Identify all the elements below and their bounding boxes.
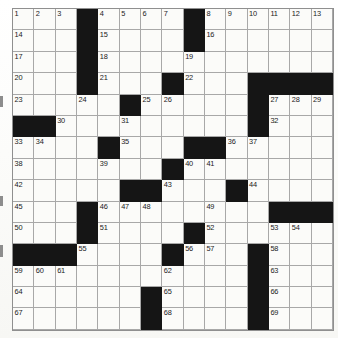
grid-cell[interactable] [226, 287, 247, 308]
grid-cell[interactable]: 37 [248, 137, 269, 158]
grid-cell[interactable] [77, 137, 98, 158]
grid-cell[interactable]: 54 [290, 223, 311, 244]
grid-cell[interactable]: 67 [13, 308, 34, 329]
grid-cell[interactable]: 6 [141, 9, 162, 30]
grid-cell[interactable] [184, 180, 205, 201]
grid-cell[interactable] [312, 287, 333, 308]
grid-cell[interactable]: 1 [13, 9, 34, 30]
grid-cell[interactable] [56, 137, 77, 158]
grid-cell[interactable] [269, 52, 290, 73]
grid-cell[interactable] [205, 266, 226, 287]
grid-cell[interactable]: 47 [120, 202, 141, 223]
grid-cell[interactable] [312, 244, 333, 265]
grid-cell[interactable] [162, 52, 183, 73]
grid-cell[interactable] [34, 52, 55, 73]
grid-cell[interactable]: 2 [34, 9, 55, 30]
grid-cell[interactable] [184, 266, 205, 287]
grid-cell[interactable] [312, 180, 333, 201]
grid-cell[interactable] [98, 244, 119, 265]
grid-cell[interactable] [226, 73, 247, 94]
grid-cell[interactable] [120, 73, 141, 94]
grid-cell[interactable] [98, 266, 119, 287]
grid-cell[interactable] [141, 244, 162, 265]
grid-cell[interactable] [312, 137, 333, 158]
grid-cell[interactable] [98, 287, 119, 308]
grid-cell[interactable] [162, 202, 183, 223]
grid-cell[interactable] [312, 159, 333, 180]
grid-cell[interactable]: 9 [226, 9, 247, 30]
grid-cell[interactable] [269, 30, 290, 51]
grid-cell[interactable] [226, 95, 247, 116]
grid-cell[interactable] [56, 180, 77, 201]
grid-cell[interactable]: 13 [312, 9, 333, 30]
grid-cell[interactable] [56, 95, 77, 116]
grid-cell[interactable]: 33 [13, 137, 34, 158]
grid-cell[interactable]: 49 [205, 202, 226, 223]
grid-cell[interactable] [34, 30, 55, 51]
grid-cell[interactable]: 23 [13, 95, 34, 116]
grid-cell[interactable]: 59 [13, 266, 34, 287]
grid-cell[interactable] [312, 30, 333, 51]
grid-cell[interactable]: 48 [141, 202, 162, 223]
grid-cell[interactable] [56, 73, 77, 94]
grid-cell[interactable]: 65 [162, 287, 183, 308]
grid-cell[interactable] [290, 244, 311, 265]
grid-cell[interactable] [312, 223, 333, 244]
grid-cell[interactable]: 58 [269, 244, 290, 265]
grid-cell[interactable] [248, 52, 269, 73]
grid-cell[interactable] [226, 116, 247, 137]
grid-cell[interactable]: 61 [56, 266, 77, 287]
grid-cell[interactable] [56, 287, 77, 308]
grid-cell[interactable] [226, 266, 247, 287]
grid-cell[interactable]: 12 [290, 9, 311, 30]
crossword-grid[interactable]: 1234567891011121314151617181920212223242… [12, 8, 334, 331]
grid-cell[interactable] [56, 223, 77, 244]
grid-cell[interactable]: 69 [269, 308, 290, 329]
grid-cell[interactable]: 63 [269, 266, 290, 287]
grid-cell[interactable] [205, 116, 226, 137]
grid-cell[interactable] [269, 180, 290, 201]
grid-cell[interactable]: 19 [184, 52, 205, 73]
grid-cell[interactable]: 17 [13, 52, 34, 73]
grid-cell[interactable] [141, 137, 162, 158]
grid-cell[interactable] [120, 287, 141, 308]
grid-cell[interactable] [77, 116, 98, 137]
grid-cell[interactable] [162, 223, 183, 244]
grid-cell[interactable] [205, 95, 226, 116]
grid-cell[interactable]: 11 [269, 9, 290, 30]
grid-cell[interactable] [248, 159, 269, 180]
grid-cell[interactable]: 39 [98, 159, 119, 180]
grid-cell[interactable]: 38 [13, 159, 34, 180]
grid-cell[interactable] [205, 308, 226, 329]
grid-cell[interactable]: 56 [184, 244, 205, 265]
grid-cell[interactable] [290, 116, 311, 137]
grid-cell[interactable] [56, 52, 77, 73]
grid-cell[interactable]: 32 [269, 116, 290, 137]
grid-cell[interactable] [226, 30, 247, 51]
grid-cell[interactable]: 41 [205, 159, 226, 180]
grid-cell[interactable] [120, 30, 141, 51]
grid-cell[interactable]: 42 [13, 180, 34, 201]
grid-cell[interactable]: 24 [77, 95, 98, 116]
grid-cell[interactable] [312, 266, 333, 287]
grid-cell[interactable]: 35 [120, 137, 141, 158]
grid-cell[interactable] [290, 52, 311, 73]
grid-cell[interactable]: 31 [120, 116, 141, 137]
grid-cell[interactable] [56, 159, 77, 180]
grid-cell[interactable] [141, 159, 162, 180]
grid-cell[interactable] [77, 180, 98, 201]
grid-cell[interactable]: 66 [269, 287, 290, 308]
grid-cell[interactable] [226, 202, 247, 223]
grid-cell[interactable] [141, 116, 162, 137]
grid-cell[interactable] [56, 308, 77, 329]
grid-cell[interactable]: 21 [98, 73, 119, 94]
grid-cell[interactable] [77, 308, 98, 329]
grid-cell[interactable] [205, 180, 226, 201]
grid-cell[interactable]: 52 [205, 223, 226, 244]
grid-cell[interactable]: 40 [184, 159, 205, 180]
grid-cell[interactable] [120, 244, 141, 265]
grid-cell[interactable] [34, 287, 55, 308]
grid-cell[interactable]: 34 [34, 137, 55, 158]
grid-cell[interactable] [312, 116, 333, 137]
grid-cell[interactable] [141, 73, 162, 94]
